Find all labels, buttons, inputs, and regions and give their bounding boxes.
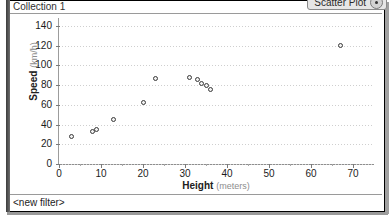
window-right-edge [385,2,389,214]
x-tick-label: 40 [212,169,242,179]
y-tick-label: 60 [41,100,52,110]
x-axis-label-text: Height [182,180,213,191]
data-point[interactable] [338,43,343,48]
x-tick-label: 50 [254,169,284,179]
plot-type-label: Scatter Plot [314,0,366,9]
y-gridline [59,85,374,86]
y-tick-label: 140 [35,21,52,31]
y-gridline [59,46,374,47]
y-gridline [59,144,374,145]
y-tick-label: 40 [41,120,52,130]
y-gridline [59,164,374,165]
y-tick-label: 0 [46,159,52,169]
new-filter-label[interactable]: <new filter> [13,197,65,209]
filter-bar[interactable]: <new filter> [9,194,382,211]
plot-canvas[interactable]: Speed (km/h) Height (meters) 02040608010… [9,14,382,194]
data-point[interactable] [141,100,146,105]
data-point[interactable] [153,76,158,81]
x-tick-label: 30 [170,169,200,179]
x-tick-minor [206,164,207,166]
y-tick-mark [56,65,60,66]
data-point[interactable] [187,75,192,80]
radio-dot-icon [370,0,383,9]
x-tick-label: 10 [86,169,116,179]
y-tick-mark [56,85,60,86]
scatter-plot-window: Collection 1 Scatter Plot Speed (km/h) H… [0,0,391,216]
y-gridline [59,65,374,66]
y-tick-mark [56,144,60,145]
x-tick-label: 70 [338,169,368,179]
y-axis-line [58,18,59,164]
y-gridline [59,26,374,27]
x-tick-minor [122,164,123,166]
y-tick-mark [56,105,60,106]
y-axis-label-text: Speed [28,71,39,101]
x-axis-label: Height (meters) [58,180,374,191]
x-tick-label: 0 [44,169,74,179]
x-tick-minor [290,164,291,166]
data-point[interactable] [69,134,74,139]
scatter-graph: Speed (km/h) Height (meters) 02040608010… [9,14,382,194]
x-axis-unit: (meters) [216,181,250,191]
y-tick-label: 120 [35,41,52,51]
y-tick-mark [56,26,60,27]
x-tick-label: 20 [128,169,158,179]
data-point[interactable] [111,117,116,122]
data-point[interactable] [208,87,213,92]
y-gridline [59,105,374,106]
collection-title: Collection 1 [13,1,65,13]
y-gridline [59,125,374,126]
x-tick-minor [248,164,249,166]
window-left-edge [6,0,10,212]
y-tick-mark [56,125,60,126]
x-tick-minor [80,164,81,166]
data-point[interactable] [94,127,99,132]
x-tick-minor [164,164,165,166]
y-tick-label: 100 [35,60,52,70]
y-tick-label: 20 [41,139,52,149]
y-tick-label: 80 [41,80,52,90]
y-tick-mark [56,46,60,47]
x-tick-label: 60 [296,169,326,179]
x-tick-minor [332,164,333,166]
plot-type-button[interactable]: Scatter Plot [307,0,387,10]
